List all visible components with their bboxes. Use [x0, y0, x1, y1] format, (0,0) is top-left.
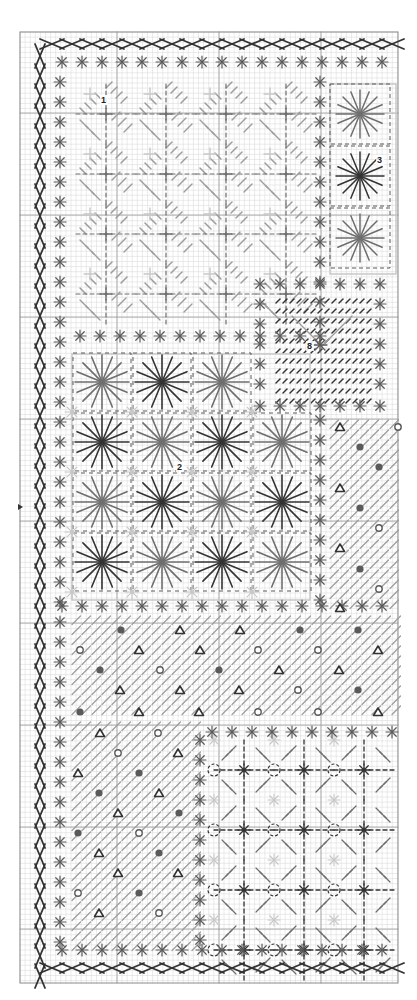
asterisk-stitch-icon [54, 76, 66, 88]
open-circle-icon [115, 750, 121, 756]
asterisk-stitch-icon [254, 378, 266, 390]
triangle-icon [374, 646, 383, 654]
asterisk-stitch-icon [274, 400, 286, 412]
asterisk-stitch-icon [236, 56, 248, 68]
star-stitch-icon [135, 355, 189, 409]
star-stitch-icon [135, 535, 189, 589]
asterisk-stitch-icon [254, 298, 266, 310]
filled-dot-icon [74, 829, 81, 836]
star-stitch-icon [185, 525, 199, 539]
asterisk-stitch-icon [54, 216, 66, 228]
star-stitch-icon [195, 355, 249, 409]
asterisk-stitch-icon [274, 278, 286, 290]
asterisk-stitch-icon [296, 600, 308, 612]
asterisk-stitch-icon [136, 600, 148, 612]
asterisk-stitch-icon [346, 726, 358, 738]
asterisk-stitch-icon [314, 256, 326, 268]
asterisk-stitch-icon [214, 330, 226, 342]
asterisk-stitch-icon [176, 600, 188, 612]
asterisk-stitch-icon [194, 794, 206, 806]
asterisk-stitch-icon [54, 136, 66, 148]
asterisk-stitch-icon [294, 400, 306, 412]
asterisk-stitch-icon [54, 916, 66, 928]
asterisk-stitch-icon [194, 934, 206, 946]
asterisk-stitch-icon [194, 894, 206, 906]
star-stitch-icon [135, 415, 189, 469]
star-stitch-icon [185, 585, 199, 599]
asterisk-stitch-icon [194, 914, 206, 926]
asterisk-stitch-icon [314, 494, 326, 506]
triangle-icon [195, 708, 204, 716]
triangle-icon [114, 869, 123, 877]
asterisk-stitch-icon [174, 330, 186, 342]
asterisk-stitch-icon [376, 56, 388, 68]
asterisk-stitch-icon [358, 884, 370, 896]
asterisk-stitch-icon [54, 416, 66, 428]
star-stitch-icon [195, 475, 249, 529]
asterisk-stitch-icon [314, 278, 326, 290]
asterisk-stitch-icon [314, 96, 326, 108]
asterisk-stitch-icon [54, 396, 66, 408]
triangle-icon [236, 626, 245, 634]
asterisk-stitch-icon [54, 736, 66, 748]
asterisk-stitch-icon [54, 376, 66, 388]
asterisk-stitch-icon [356, 944, 368, 956]
asterisk-stitch-icon [276, 56, 288, 68]
star-stitch-icon [245, 405, 259, 419]
row-center-marker-icon [18, 504, 23, 510]
star-stitch-icon [125, 585, 139, 599]
asterisk-stitch-icon [274, 330, 286, 342]
asterisk-stitch-icon [298, 764, 310, 776]
asterisk-stitch-icon [314, 316, 326, 328]
section-label-8: 8 [307, 341, 312, 351]
asterisk-stitch-icon [206, 726, 218, 738]
star-stitch-icon [65, 585, 79, 599]
star-stitch-icon [185, 465, 199, 479]
asterisk-stitch-icon [54, 796, 66, 808]
asterisk-stitch-icon [56, 600, 68, 612]
star-stitch-icon [135, 475, 189, 529]
asterisk-stitch-icon [54, 536, 66, 548]
star-stitch-icon [185, 405, 199, 419]
asterisk-stitch-icon [268, 914, 280, 926]
asterisk-stitch-icon [256, 944, 268, 956]
asterisk-stitch-icon [374, 298, 386, 310]
filled-dot-icon [76, 708, 83, 715]
filled-dot-icon [175, 809, 182, 816]
asterisk-stitch-icon [54, 96, 66, 108]
asterisk-stitch-icon [54, 576, 66, 588]
asterisk-stitch-icon [276, 944, 288, 956]
asterisk-stitch-icon [254, 358, 266, 370]
asterisk-stitch-icon [56, 56, 68, 68]
open-circle-icon [376, 525, 382, 531]
asterisk-stitch-icon [54, 436, 66, 448]
asterisk-stitch-icon [374, 278, 386, 290]
asterisk-stitch-icon [54, 276, 66, 288]
asterisk-stitch-icon [294, 330, 306, 342]
asterisk-stitch-icon [216, 944, 228, 956]
asterisk-stitch-icon [54, 356, 66, 368]
filled-dot-icon [96, 666, 103, 673]
asterisk-stitch-icon [54, 656, 66, 668]
asterisk-stitch-icon [314, 296, 326, 308]
asterisk-stitch-icon [334, 278, 346, 290]
star-stitch-icon [75, 355, 129, 409]
star-stitch-icon [75, 475, 129, 529]
asterisk-stitch-icon [374, 318, 386, 330]
open-circle-icon [255, 647, 261, 653]
star-stitch-icon [245, 465, 259, 479]
asterisk-stitch-icon [54, 236, 66, 248]
asterisk-stitch-icon [266, 726, 278, 738]
asterisk-stitch-icon [374, 338, 386, 350]
asterisk-stitch-icon [216, 56, 228, 68]
star-stitch-icon [255, 535, 309, 589]
asterisk-stitch-icon [316, 600, 328, 612]
asterisk-stitch-icon [96, 600, 108, 612]
asterisk-stitch-icon [256, 600, 268, 612]
open-circle-icon [77, 647, 83, 653]
asterisk-stitch-icon [94, 330, 106, 342]
asterisk-stitch-icon [76, 944, 88, 956]
triangle-icon [374, 708, 383, 716]
asterisk-stitch-icon [316, 56, 328, 68]
asterisk-stitch-icon [314, 454, 326, 466]
